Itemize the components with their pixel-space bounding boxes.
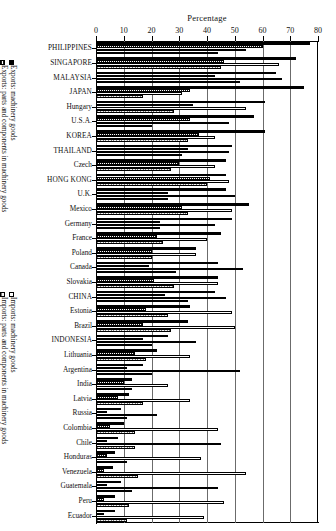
bar-imp-parts [96,388,132,391]
y-axis-label-honduras: Honduras [64,454,92,461]
y-axis-label-u-s-a-: U.S.A. [71,118,92,125]
y-axis-label-estonia: Estonia [70,308,92,315]
chart-row: Slovakia [96,275,318,290]
y-axis-label-slovakia: Slovakia [66,278,92,285]
bar-imp-parts [96,446,135,449]
chart-row: INDONESIA [96,333,318,348]
chart-row: Canada [96,260,318,275]
x-tick-label-20: 20 [148,26,156,35]
chart-row: Russia [96,406,318,421]
y-axis-label-u-k-: U.K. [77,191,92,198]
chart-row: CHINA [96,289,318,304]
y-axis-label-brazil: Brazil [74,322,92,329]
bar-imp-parts [96,168,171,171]
y-axis-label-china: CHINA [68,293,92,300]
bar-imp-parts [96,81,240,84]
x-tick-label-60: 60 [259,26,267,35]
bar-imp-parts [96,139,188,142]
chart-row: Peru [96,494,318,509]
chart-row: Mexico [96,202,318,217]
bar-imp-parts [96,417,127,420]
bar-imp-parts [96,431,135,434]
legend-entry-exports-machinery: Exports: machinery goods [9,60,17,140]
y-axis-label-indonesia: INDONESIA [51,337,92,344]
bar-imp-parts [96,373,152,376]
y-axis-label-india: India [77,381,92,388]
chart-row: Lithuania [96,348,318,363]
bar-imp-parts [96,490,132,493]
y-axis-label-france: France [72,235,92,242]
chart-row: Colombia [96,421,318,436]
plot-area: PHILIPPINESSINGAPOREMALAYSIAJAPANHungary… [96,41,318,523]
legend-entry-imports-parts: Imports: parts and components in machine… [0,292,8,444]
chart-row: HONG KONG [96,172,318,187]
legend-entry-imports-machinery: Imports: machinery goods [9,292,17,372]
x-tick-label-40: 40 [203,26,211,35]
legend-label-imports-parts: Imports: parts and components in machine… [0,297,8,444]
bar-imp-parts [96,256,152,259]
x-tick-label-10: 10 [120,26,128,35]
bar-imp-parts [96,154,182,157]
bar-imp-parts [96,461,127,464]
y-axis-label-lithuania: Lithuania [64,351,92,358]
y-axis-label-singapore: SINGAPORE [50,59,92,66]
legend-label-exports-machinery: Exports: machinery goods [9,65,17,140]
y-axis-label-ecuador: Ecuador [68,512,92,519]
chart-row: Argentina [96,362,318,377]
bar-imp-parts [96,300,188,303]
chart-row: Latvia [96,392,318,407]
bar-imp-parts [96,66,221,69]
bar-imp-parts [96,125,152,128]
bar-imp-parts [96,358,146,361]
y-axis-label-chile: Chile [76,439,92,446]
y-axis-label-malaysia: MALAYSIA [53,74,92,81]
bar-imp-parts [96,95,143,98]
chart-row: KOREA [96,129,318,144]
bar-imp-parts [96,241,163,244]
x-axis-title: Percentage [96,13,318,23]
chart-row: India [96,377,318,392]
bar-imp-parts [96,198,168,201]
y-axis-label-guatemala: Guatemala [60,483,92,490]
y-axis-label-japan: JAPAN [69,88,92,95]
bar-imp-parts [96,52,218,55]
bar-imp-parts [96,329,171,332]
chart-row: Brazil [96,319,318,334]
y-axis-label-colombia: Colombia [63,424,92,431]
chart-row: Venezuela [96,465,318,480]
legend-label-exports-parts: Exports: parts and components in machine… [0,65,8,212]
chart-row: Estonia [96,304,318,319]
x-tick-label-50: 50 [231,26,239,35]
bar-chart-figure: Percentage 01020304050607080 PHILIPPINES… [0,0,336,531]
y-axis-label-mexico: Mexico [70,205,92,212]
y-axis-label-poland: Poland [72,249,92,256]
bar-imp-parts [96,227,160,230]
bar-imp-parts [96,285,174,288]
chart-row: SINGAPORE [96,56,318,71]
chart-row: France [96,231,318,246]
y-axis-label-canada: Canada [70,264,92,271]
y-axis-label-korea: KOREA [66,132,92,139]
y-axis-label-latvia: Latvia [73,395,92,402]
bar-imp-parts [96,314,168,317]
x-tick-label-30: 30 [175,26,183,35]
y-axis-label-argentina: Argentina [63,366,92,373]
chart-row: Honduras [96,450,318,465]
y-axis-label-venezuela: Venezuela [62,468,92,475]
x-tick-label-80: 80 [314,26,322,35]
chart-row: MALAYSIA [96,70,318,85]
chart-row: Germany [96,216,318,231]
bar-imp-parts [96,504,129,507]
bar-imp-parts [96,402,143,405]
chart-row: Guatemala [96,479,318,494]
y-axis-label-philippines: PHILIPPINES [48,45,92,52]
chart-row: Czech [96,158,318,173]
chart-row: PHILIPPINES [96,41,318,56]
y-axis-label-hungary: Hungary [66,103,92,110]
y-axis-label-germany: Germany [65,220,92,227]
chart-row: Ecuador [96,508,318,523]
y-axis-label-czech: Czech [74,161,92,168]
chart-row: Poland [96,245,318,260]
y-axis-label-russia: Russia [73,410,92,417]
chart-row: U.S.A. [96,114,318,129]
